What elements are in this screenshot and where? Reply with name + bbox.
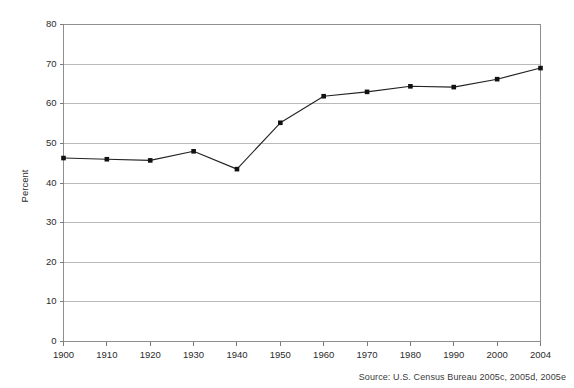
data-point-1930 <box>191 149 196 154</box>
data-point-1900 <box>61 156 66 161</box>
x-tick-label-1910: 1910 <box>96 349 117 360</box>
x-tick-label-1950: 1950 <box>270 349 291 360</box>
y-tick-label-30: 30 <box>46 216 57 227</box>
series-line-percent <box>64 68 541 169</box>
x-tick-label-1930: 1930 <box>183 349 204 360</box>
x-tick-label-1990: 1990 <box>443 349 464 360</box>
data-point-2004 <box>538 66 543 71</box>
data-point-1970 <box>365 90 370 95</box>
x-axis-ticks <box>64 342 541 346</box>
data-point-1940 <box>235 167 240 172</box>
data-point-1950 <box>278 120 283 125</box>
x-tick-label-1940: 1940 <box>226 349 247 360</box>
y-axis-tick-labels: 01020304050607080 <box>46 18 64 346</box>
source-note: Source: U.S. Census Bureau 2005c, 2005d,… <box>359 372 566 382</box>
data-point-1990 <box>451 85 456 90</box>
chart-figure: 01020304050607080 1900191019201930194019… <box>0 0 574 388</box>
data-point-2000 <box>495 77 500 82</box>
data-point-1920 <box>148 158 153 163</box>
y-tick-label-10: 10 <box>46 295 57 306</box>
x-axis-tick-labels: 1900191019201930194019501960197019801990… <box>53 349 551 360</box>
x-tick-label-1980: 1980 <box>400 349 421 360</box>
y-tick-label-80: 80 <box>46 18 57 29</box>
y-tick-label-20: 20 <box>46 256 57 267</box>
line-chart: 01020304050607080 1900191019201930194019… <box>0 0 574 388</box>
y-tick-label-40: 40 <box>46 177 57 188</box>
data-point-1980 <box>408 84 413 89</box>
x-tick-label-1900: 1900 <box>53 349 74 360</box>
y-tick-label-70: 70 <box>46 58 57 69</box>
y-axis-title: Percent <box>19 169 30 202</box>
y-tick-label-0: 0 <box>51 335 56 346</box>
x-tick-label-1920: 1920 <box>140 349 161 360</box>
data-point-1910 <box>105 157 110 162</box>
y-tick-label-50: 50 <box>46 137 57 148</box>
gridlines-group <box>64 25 541 342</box>
data-series-percent <box>61 66 543 172</box>
x-tick-label-2000: 2000 <box>487 349 508 360</box>
y-tick-label-60: 60 <box>46 97 57 108</box>
x-tick-label-1970: 1970 <box>356 349 377 360</box>
x-tick-label-2004: 2004 <box>530 349 551 360</box>
data-point-1960 <box>321 94 326 99</box>
x-tick-label-1960: 1960 <box>313 349 334 360</box>
